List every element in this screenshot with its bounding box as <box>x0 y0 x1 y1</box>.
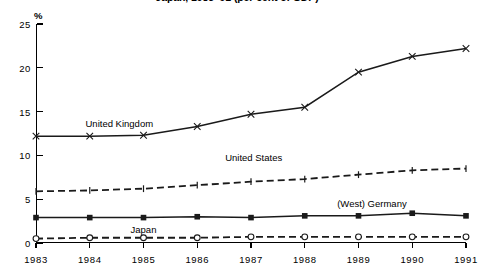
x-tick-label: 1988 <box>293 254 317 265</box>
data-point-marker <box>409 210 415 216</box>
series-label-west-germany: (West) Germany <box>337 198 407 209</box>
x-tick-label: 1985 <box>132 254 156 265</box>
data-point-marker <box>463 213 469 219</box>
x-tick-label: 1984 <box>78 254 102 265</box>
series-label-united-kingdom: United Kingdom <box>86 118 154 129</box>
series-japan <box>33 234 469 242</box>
y-tick-label: 10 <box>19 150 31 161</box>
plot-area: 0510152025 19831984198519861987198819891… <box>36 24 466 243</box>
data-point-marker <box>356 213 362 219</box>
x-tick <box>143 243 144 248</box>
chart-title: Japan, 1983–91 (per cent of GDP) <box>0 0 474 3</box>
data-point-marker <box>141 215 147 221</box>
data-point-marker <box>194 214 200 220</box>
x-tick-label: 1990 <box>400 254 424 265</box>
x-tick <box>197 243 198 248</box>
data-point-marker <box>302 234 308 240</box>
y-axis-unit-label: % <box>34 10 42 21</box>
x-tick-label: 1989 <box>347 254 371 265</box>
data-point-marker <box>33 236 39 242</box>
x-tick-label: 1986 <box>185 254 209 265</box>
series-united-states <box>36 165 466 195</box>
y-tick-label: 0 <box>25 238 31 249</box>
y-tick-label: 20 <box>19 62 31 73</box>
x-tick-label: 1987 <box>239 254 263 265</box>
y-tick-label: 15 <box>19 106 31 117</box>
series-label-japan: Japan <box>131 224 157 235</box>
x-tick <box>304 243 305 248</box>
data-point-marker <box>356 234 362 240</box>
data-point-marker <box>33 215 39 221</box>
y-tick-label: 25 <box>19 19 31 30</box>
x-tick <box>465 243 466 248</box>
series-west-germany <box>33 210 469 220</box>
x-tick-label: 1983 <box>24 254 48 265</box>
data-point-marker <box>302 213 308 219</box>
x-tick <box>358 243 359 248</box>
data-point-marker <box>409 234 415 240</box>
x-tick <box>412 243 413 248</box>
data-point-marker <box>87 215 93 221</box>
x-tick <box>250 243 251 248</box>
data-point-marker <box>463 234 469 240</box>
data-point-marker <box>87 235 93 241</box>
y-tick-label: 5 <box>25 194 31 205</box>
data-point-marker <box>248 234 254 240</box>
series-plot <box>36 24 466 243</box>
x-tick <box>35 243 36 248</box>
data-point-marker <box>248 215 254 221</box>
series-label-united-states: United States <box>225 152 282 163</box>
data-point-marker <box>194 235 200 241</box>
data-point-marker <box>141 235 147 241</box>
x-tick <box>89 243 90 248</box>
x-tick-label: 1991 <box>454 254 478 265</box>
